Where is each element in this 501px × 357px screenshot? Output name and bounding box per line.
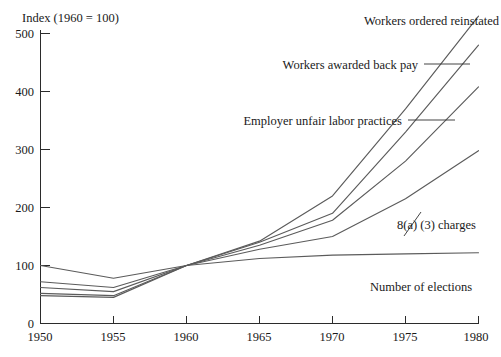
annotation-leader-lines — [404, 64, 470, 236]
x-axis-tick-labels: 1950 1955 1960 1965 1970 1975 1980 — [28, 330, 489, 344]
series-line-number-of-elections — [41, 253, 479, 279]
y-axis-ticks — [41, 34, 50, 266]
y-axis-title: Index (1960 = 100) — [22, 11, 119, 25]
x-tick-label: 1965 — [247, 330, 272, 344]
y-tick-label: 400 — [15, 85, 34, 99]
series-label-number-of-elections: Number of elections — [370, 280, 472, 294]
y-tick-label: 200 — [15, 201, 34, 215]
x-tick-label: 1975 — [393, 330, 418, 344]
y-tick-label: 100 — [15, 259, 34, 273]
y-axis-tick-labels: 500 400 300 200 100 0 — [15, 27, 34, 331]
series-label-8a3-charges: 8(a) (3) charges — [397, 218, 476, 232]
x-tick-label: 1950 — [28, 330, 53, 344]
line-chart: Index (1960 = 100) 500 400 300 200 100 0 — [0, 0, 501, 357]
x-tick-label: 1980 — [464, 330, 489, 344]
x-tick-label: 1960 — [174, 330, 199, 344]
y-tick-label: 0 — [28, 317, 34, 331]
y-tick-label: 500 — [15, 27, 34, 41]
chart-container: Index (1960 = 100) 500 400 300 200 100 0 — [0, 0, 501, 357]
x-tick-label: 1955 — [101, 330, 126, 344]
x-tick-label: 1970 — [320, 330, 345, 344]
series-annotations: Workers ordered reinstated Workers award… — [243, 14, 499, 294]
series-label-employer-unfair-labor-practices: Employer unfair labor practices — [243, 114, 402, 128]
y-tick-label: 300 — [15, 143, 34, 157]
x-axis-ticks — [114, 316, 479, 324]
series-label-workers-awarded-back-pay: Workers awarded back pay — [283, 58, 419, 72]
series-label-workers-ordered-reinstated: Workers ordered reinstated — [364, 14, 500, 28]
